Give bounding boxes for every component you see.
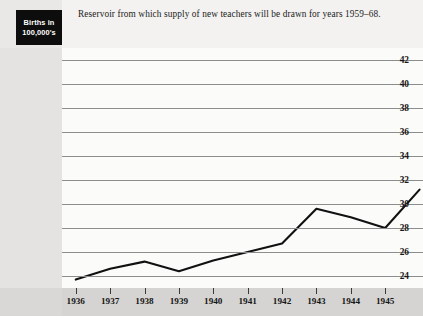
x-tick-mark bbox=[110, 288, 111, 294]
bottom-margin bbox=[0, 316, 423, 332]
y-tick-label: 34 bbox=[400, 151, 409, 161]
x-tick-mark bbox=[213, 288, 214, 294]
x-tick-label: 1942 bbox=[273, 296, 291, 306]
x-tick-mark bbox=[76, 288, 77, 294]
x-tick-label: 1944 bbox=[342, 296, 360, 306]
y-tick-label: 32 bbox=[400, 175, 409, 185]
gridline bbox=[62, 156, 423, 157]
x-tick-mark bbox=[316, 288, 317, 294]
chart-caption: Reservoir from which supply of new teach… bbox=[78, 8, 414, 21]
gridline bbox=[62, 180, 423, 181]
x-tick-label: 1937 bbox=[101, 296, 119, 306]
x-tick-label: 1936 bbox=[67, 296, 85, 306]
y-tick-label: 38 bbox=[400, 103, 409, 113]
y-axis-gutter bbox=[0, 48, 62, 288]
x-tick-mark bbox=[351, 288, 352, 294]
y-tick-label: 28 bbox=[400, 223, 409, 233]
y-tick-label: 26 bbox=[400, 247, 409, 257]
x-tick-label: 1945 bbox=[376, 296, 394, 306]
x-tick-mark bbox=[145, 288, 146, 294]
y-axis-unit-box: Births in 100,000's bbox=[16, 10, 62, 45]
gridline bbox=[62, 228, 423, 229]
y-tick-label: 40 bbox=[400, 79, 409, 89]
x-tick-mark bbox=[385, 288, 386, 294]
gridline bbox=[62, 252, 423, 253]
gridline bbox=[62, 60, 423, 61]
x-tick-label: 1939 bbox=[170, 296, 188, 306]
x-tick-label: 1943 bbox=[307, 296, 325, 306]
x-tick-label: 1940 bbox=[204, 296, 222, 306]
y-tick-label: 42 bbox=[400, 55, 409, 65]
gridline bbox=[62, 108, 423, 109]
gridline bbox=[62, 204, 423, 205]
gridline bbox=[62, 276, 423, 277]
x-tick-mark bbox=[282, 288, 283, 294]
gridline bbox=[62, 132, 423, 133]
plot-area bbox=[62, 48, 423, 288]
x-tick-label: 1941 bbox=[238, 296, 256, 306]
y-tick-label: 30 bbox=[400, 199, 409, 209]
unit-box-line-2: 100,000's bbox=[22, 28, 55, 38]
chart-figure: Reservoir from which supply of new teach… bbox=[0, 0, 423, 332]
unit-box-line-1: Births in bbox=[24, 18, 55, 28]
x-tick-label: 1938 bbox=[135, 296, 153, 306]
x-tick-mark bbox=[248, 288, 249, 294]
y-tick-label: 36 bbox=[400, 127, 409, 137]
gridline bbox=[62, 84, 423, 85]
x-tick-mark bbox=[179, 288, 180, 294]
y-tick-label: 24 bbox=[400, 271, 409, 281]
